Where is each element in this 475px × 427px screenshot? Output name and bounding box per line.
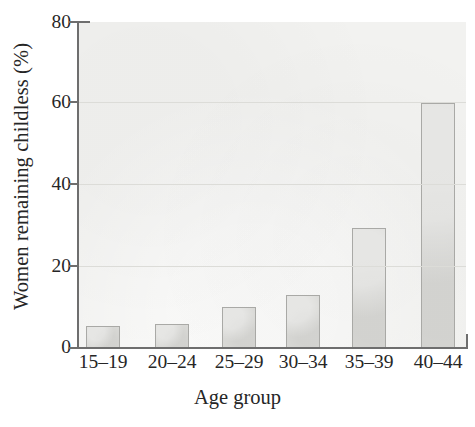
x-tick-label-35-39: 35–39 [345, 352, 394, 372]
gridline-40 [78, 184, 466, 185]
bar-40–44 [421, 103, 455, 348]
gridline-60 [78, 102, 466, 103]
y-tickmark-20 [69, 265, 78, 267]
x-tick-label-25-29: 25–29 [215, 352, 264, 372]
gridline-20 [78, 266, 466, 267]
x-tick-label-30-34: 30–34 [279, 352, 328, 372]
y-tickmark-40 [69, 183, 78, 185]
bar-25–29 [222, 307, 256, 348]
bar-30–34 [286, 295, 320, 348]
plot-area [78, 22, 466, 348]
x-axis-right-cap [466, 334, 468, 349]
y-axis-tick-labels: 80 60 40 20 0 [28, 0, 78, 427]
y-tickmark-80 [69, 21, 78, 23]
x-axis-line [77, 347, 468, 349]
bar-20–24 [155, 324, 189, 348]
x-tick-label-15-19: 15–19 [79, 352, 128, 372]
y-tickmark-60 [69, 101, 78, 103]
x-axis-title: Age group [0, 386, 475, 409]
y-axis-top-cap [77, 21, 90, 23]
bar-chart-figure: Women remaining childless (%) 80 60 40 2… [0, 0, 475, 427]
x-tick-label-20-24: 20–24 [148, 352, 197, 372]
bar-35–39 [352, 228, 386, 348]
y-axis-line [77, 21, 79, 349]
y-tickmark-0 [69, 347, 78, 349]
x-tick-label-40-44: 40–44 [414, 352, 463, 372]
bar-15–19 [86, 326, 120, 348]
